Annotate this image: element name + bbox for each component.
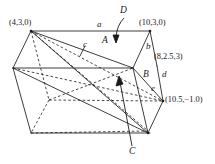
vertex-dot-bottomright	[147, 132, 150, 135]
hidden-edge-front-vertical	[31, 31, 49, 100]
edge-leftback-to-bottomleft	[13, 68, 31, 133]
callout-label-D: D	[120, 6, 127, 16]
face-label-A: A	[102, 36, 108, 46]
coordinate-label-right-lower: (10.5,−1.0)	[165, 96, 203, 104]
edge-diagonal-long	[31, 31, 148, 133]
edge-label-c: c	[83, 40, 87, 49]
hidden-edges	[13, 31, 163, 133]
coordinate-label-top-left: (4,3,0)	[9, 19, 31, 27]
face-label-B: B	[143, 70, 149, 80]
edge-label-d: d	[162, 70, 167, 79]
callout-arrow-D	[113, 18, 124, 43]
hidden-diagonal-3	[13, 68, 163, 101]
vertex-dot-rightlower	[162, 100, 165, 103]
edge-label-a: a	[97, 20, 102, 29]
callout-arrow-C	[116, 76, 132, 146]
solid-edges	[13, 31, 163, 133]
hidden-diagonal-1	[31, 31, 163, 101]
figure-drawing	[0, 0, 215, 164]
callout-label-C: C	[129, 147, 135, 157]
coordinate-label-right-upper: (8,2.5,3)	[154, 53, 183, 61]
vertex-dot-topright	[149, 30, 152, 33]
vertex-dot-topleft	[30, 30, 33, 33]
hidden-edge-to-bottomleft	[31, 100, 49, 133]
coordinate-label-top-right: (10,3,0)	[139, 19, 166, 27]
geometry-figure: (4,3,0) (10,3,0) (8,2.5,3) (10.5,−1.0) a…	[0, 0, 215, 164]
edge-topleft-to-leftback	[13, 31, 31, 68]
hidden-edge-horizontal-depth	[49, 100, 163, 101]
vertex-dots	[30, 30, 165, 135]
edge-label-e: e	[151, 84, 155, 93]
edge-lower-right-to-bottom	[148, 101, 163, 133]
edge-label-b: b	[146, 42, 151, 51]
